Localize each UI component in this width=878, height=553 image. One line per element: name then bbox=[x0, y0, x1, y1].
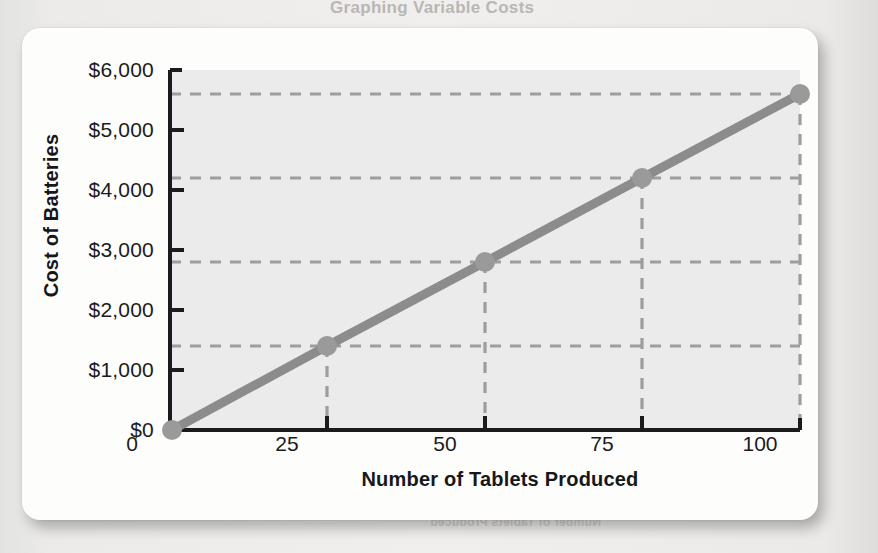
data-point-50 bbox=[475, 252, 495, 272]
x-axis-title: Number of Tablets Produced bbox=[170, 468, 830, 491]
x-axis-tick-labels: 100 bbox=[760, 432, 840, 456]
x-tick-label: 50 bbox=[405, 432, 485, 456]
x-axis-tick-labels: 75 bbox=[602, 432, 682, 456]
data-point-25 bbox=[317, 336, 337, 356]
x-axis-tick-labels: 0 bbox=[132, 432, 212, 456]
data-point-100 bbox=[790, 84, 810, 104]
chart-figure: Cost of Batteries $6,000 $5,000 $4,000 $… bbox=[22, 28, 818, 520]
x-tick-label: 0 bbox=[92, 432, 172, 456]
chart-card: Cost of Batteries $6,000 $5,000 $4,000 $… bbox=[22, 28, 818, 520]
x-tick-label: 100 bbox=[720, 432, 800, 456]
x-axis-tick-labels: 25 bbox=[287, 432, 367, 456]
bleed-through-title: Graphing Variable Costs bbox=[330, 0, 534, 18]
data-point-75 bbox=[632, 168, 652, 188]
x-axis-tick-labels: 50 bbox=[445, 432, 525, 456]
x-tick-label: 75 bbox=[562, 432, 642, 456]
x-tick-label: 25 bbox=[247, 432, 327, 456]
